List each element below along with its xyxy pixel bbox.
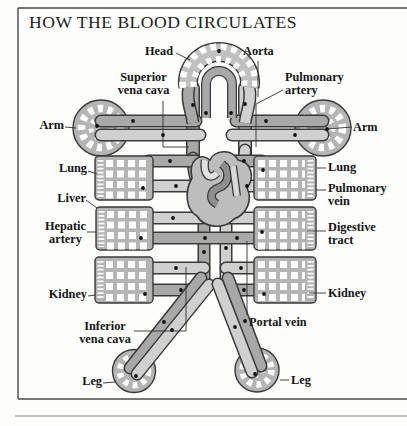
head-capillary-bed [183, 47, 256, 123]
label-liver: Liver [57, 192, 86, 205]
liver-bed [96, 207, 153, 250]
digestive-tract-bed [254, 207, 316, 250]
arm-left-capillary-bed [73, 100, 129, 156]
label-digestive-tract: Digestive tract [328, 221, 376, 246]
label-portal-vein: Portal vein [249, 316, 307, 329]
label-kidney-right: Kidney [328, 287, 366, 300]
kidney-left-bed [95, 257, 153, 303]
heart [187, 152, 251, 226]
label-hepatic-artery: Hepatic artery [45, 220, 86, 245]
label-kidney-left: Kidney [49, 288, 87, 301]
circulation-diagram [0, 0, 407, 426]
label-leg-left: Leg [82, 375, 102, 388]
lung-right-bed [254, 156, 316, 200]
label-pulmonary-artery: Pulmonary artery [285, 71, 344, 96]
label-aorta: Aorta [243, 45, 274, 58]
label-lung-right: Lung [328, 161, 356, 174]
label-leg-right: Leg [291, 374, 311, 387]
label-inferior-vena-cava: Inferior vena cava [78, 320, 132, 345]
label-arm-left: Arm [39, 119, 64, 132]
label-head: Head [145, 45, 173, 58]
label-pulmonary-vein: Pulmonary vein [328, 182, 387, 207]
figure-title: HOW THE BLOOD CIRCULATES [29, 12, 297, 33]
blood-circulation-figure: HOW THE BLOOD CIRCULATES Head Aorta Supe… [0, 0, 407, 426]
label-lung-left: Lung [59, 162, 87, 175]
label-arm-right: Arm [353, 121, 378, 134]
label-superior-vena-cava: Superior vena cava [113, 71, 174, 96]
lung-left-bed [95, 156, 153, 200]
kidney-right-bed [254, 257, 316, 303]
